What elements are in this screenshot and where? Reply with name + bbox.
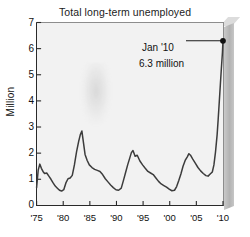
x-tick-label: '75 [24,212,50,223]
x-tick-label: '00 [157,212,183,223]
chart-figure: Total long-term unemployed 76543210 Mill… [0,0,250,237]
final-data-point-marker [220,38,226,44]
x-tick-label: '80 [50,212,76,223]
x-tick-label: '90 [103,212,129,223]
unemployment-line-series [37,41,223,191]
x-tick-label: '95 [130,212,156,223]
x-tick-label: '05 [183,212,209,223]
chart-vector-layer [0,0,250,237]
x-tick-label: '85 [77,212,103,223]
axis-tick-marks [37,23,223,206]
x-tick-label: '10 [210,212,236,223]
